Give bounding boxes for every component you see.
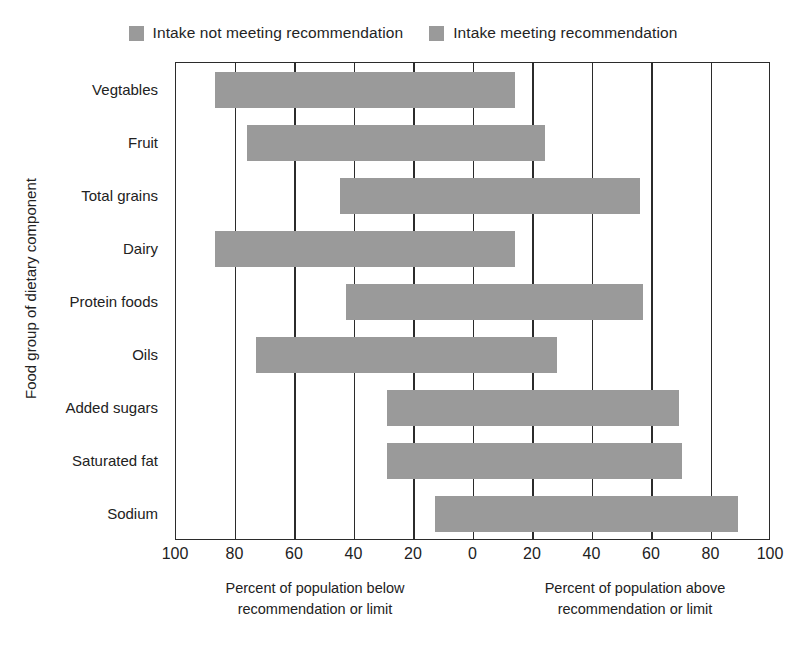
bar-vegtables [215,72,515,108]
bar-sodium [435,496,738,532]
x-tick-label: 100 [757,545,784,563]
bar-protein-foods [346,284,644,320]
x-tick-label: 20 [404,545,422,563]
legend-swatch-icon [429,26,444,41]
bar-dairy [215,231,515,267]
bar-added-sugars [387,390,679,426]
x-tick-label: 80 [226,545,244,563]
bar-saturated-fat [387,443,682,479]
chart-legend: Intake not meeting recommendation Intake… [0,24,806,42]
x-axis-tick-labels: 10080604020020406080100 [175,545,770,569]
x-tick-label: 80 [702,545,720,563]
y-axis-label-vegtables: Vegtables [92,80,158,97]
y-axis-label-saturated-fat: Saturated fat [72,452,158,469]
x-axis-label-left-line1: Percent of population below [150,578,480,599]
y-axis-category-labels: VegtablesFruitTotal grainsDairyProtein f… [0,62,168,540]
x-axis-label-left: Percent of population below recommendati… [150,578,480,620]
y-axis-label-oils: Oils [132,346,158,363]
y-axis-label-total-grains: Total grains [81,186,158,203]
legend-item-not-meeting: Intake not meeting recommendation [129,24,404,42]
x-tick-label: 60 [285,545,303,563]
bar-oils [256,337,556,373]
x-tick-label: 40 [345,545,363,563]
y-axis-label-added-sugars: Added sugars [65,399,158,416]
y-axis-label-fruit: Fruit [128,133,158,150]
gridline [711,63,712,539]
y-axis-label-sodium: Sodium [107,505,158,522]
legend-swatch-icon [129,26,144,41]
plot-area [175,62,770,540]
x-tick-label: 100 [162,545,189,563]
y-axis-label-dairy: Dairy [123,239,158,256]
x-axis-label-right-line2: recommendation or limit [470,599,800,620]
y-axis-label-protein-foods: Protein foods [70,293,158,310]
legend-item-meeting: Intake meeting recommendation [429,24,677,42]
x-axis-label-left-line2: recommendation or limit [150,599,480,620]
dietary-intake-chart: Intake not meeting recommendation Intake… [0,0,806,651]
x-tick-label: 20 [523,545,541,563]
x-tick-label: 0 [468,545,477,563]
x-tick-label: 60 [642,545,660,563]
x-tick-label: 40 [583,545,601,563]
bar-fruit [247,125,545,161]
bar-total-grains [340,178,640,214]
legend-label-not-meeting: Intake not meeting recommendation [153,24,404,42]
legend-label-meeting: Intake meeting recommendation [453,24,677,42]
x-axis-label-right: Percent of population above recommendati… [470,578,800,620]
gridline [235,63,236,539]
x-axis-label-right-line1: Percent of population above [470,578,800,599]
